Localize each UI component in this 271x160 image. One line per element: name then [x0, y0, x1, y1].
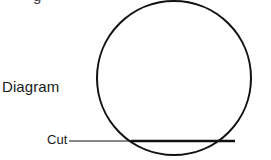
diagram-canvas: g Diagram Cut: [0, 0, 271, 160]
diagram-label: Diagram: [2, 79, 59, 94]
circle-outline: [97, 1, 251, 155]
cut-label: Cut: [47, 133, 68, 146]
clipped-top-text: g: [33, 0, 41, 3]
